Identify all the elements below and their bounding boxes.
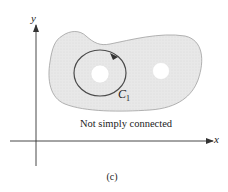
panel-label: (c) [100, 171, 124, 182]
diagram-canvas [0, 0, 228, 192]
curve-label-main: C [118, 87, 126, 101]
hole-1 [91, 65, 109, 83]
curve-label: C1 [118, 87, 130, 103]
x-axis-label: x [214, 133, 219, 145]
caption: Not simply connected [76, 118, 176, 129]
hole-2 [153, 63, 170, 80]
y-axis-label: y [31, 12, 36, 24]
curve-label-subscript: 1 [126, 94, 130, 103]
